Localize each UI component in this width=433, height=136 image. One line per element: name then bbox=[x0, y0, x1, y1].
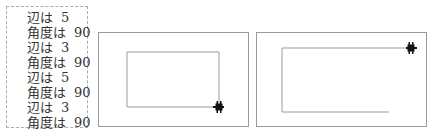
line-value: 90 bbox=[74, 25, 91, 40]
line-value: 3 bbox=[61, 40, 69, 55]
line-value: 90 bbox=[74, 85, 91, 100]
line-label: 辺は bbox=[27, 70, 53, 85]
line-value: 5 bbox=[61, 70, 69, 85]
turtle-canvas-2 bbox=[256, 32, 427, 127]
output-line: 角度は90 bbox=[27, 115, 87, 130]
line-label: 角度は bbox=[27, 85, 66, 100]
output-line: 辺は3 bbox=[27, 40, 87, 55]
output-line: 角度は90 bbox=[27, 55, 87, 70]
output-line: 辺は5 bbox=[27, 10, 87, 25]
turtle-icon bbox=[406, 42, 417, 54]
output-line: 角度は90 bbox=[27, 85, 87, 100]
turtle-canvas-1 bbox=[98, 32, 249, 127]
line-label: 辺は bbox=[27, 100, 53, 115]
line-label: 角度は bbox=[27, 115, 66, 130]
line-label: 辺は bbox=[27, 40, 53, 55]
line-value: 5 bbox=[61, 10, 69, 25]
console-output: 辺は5 角度は90 辺は3 角度は90 辺は5 角度は90 辺は3 角度は90 bbox=[6, 6, 88, 128]
output-line: 辺は5 bbox=[27, 70, 87, 85]
output-line: 辺は3 bbox=[27, 100, 87, 115]
line-value: 3 bbox=[61, 100, 69, 115]
line-label: 角度は bbox=[27, 55, 66, 70]
line-label: 角度は bbox=[27, 25, 66, 40]
line-label: 辺は bbox=[27, 10, 53, 25]
turtle-drawing-1 bbox=[99, 33, 250, 128]
turtle-drawing-2 bbox=[257, 33, 428, 128]
line-value: 90 bbox=[74, 55, 91, 70]
line-value: 90 bbox=[74, 115, 91, 130]
output-line: 角度は90 bbox=[27, 25, 87, 40]
